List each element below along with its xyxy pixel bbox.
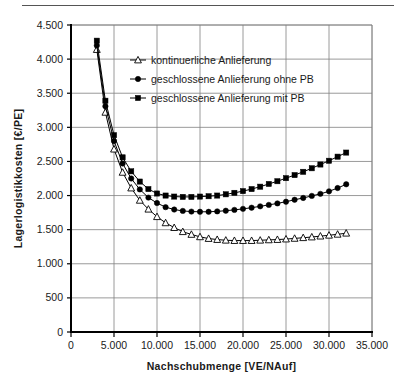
square-marker: [301, 169, 306, 174]
circle-marker: [232, 207, 237, 212]
square-marker: [223, 192, 228, 197]
x-tick-label: 5.000: [101, 339, 127, 351]
square-marker: [344, 150, 349, 155]
square-marker: [197, 194, 202, 199]
y-tick-label: 2.000: [37, 189, 63, 201]
square-marker: [120, 155, 125, 160]
y-axis-title: Lagerlogistikkosten [€/PE]: [12, 109, 24, 249]
square-marker: [163, 193, 168, 198]
x-tick-label: 35.000: [356, 339, 388, 351]
square-marker: [215, 193, 220, 198]
x-tick-label: 15.000: [184, 339, 216, 351]
square-marker: [129, 169, 134, 174]
square-marker: [103, 98, 108, 103]
x-tick-label: 0: [68, 339, 74, 351]
circle-marker: [292, 197, 297, 202]
legend-square-marker: [135, 95, 140, 100]
circle-marker: [258, 204, 263, 209]
y-axis-ticks: 05001.0001.5002.0002.5003.0003.5004.0004…: [37, 19, 71, 338]
x-tick-label: 20.000: [227, 339, 259, 351]
circle-marker: [206, 209, 211, 214]
circle-marker: [146, 195, 151, 200]
square-marker: [137, 179, 142, 184]
square-marker: [94, 38, 99, 43]
plot-background: [71, 25, 372, 332]
legend-item-0: kontinuerliche Anlieferung: [130, 54, 271, 66]
y-tick-label: 4.500: [37, 19, 63, 31]
square-marker: [309, 166, 314, 171]
square-marker: [249, 186, 254, 191]
circle-marker: [154, 200, 159, 205]
circle-marker: [223, 208, 228, 213]
circle-marker: [344, 182, 349, 187]
legend-label: geschlossene Anlieferung mit PB: [151, 92, 305, 104]
square-marker: [180, 194, 185, 199]
square-marker: [283, 176, 288, 181]
square-marker: [111, 133, 116, 138]
circle-marker: [120, 161, 125, 166]
y-tick-label: 0: [57, 326, 63, 338]
circle-marker: [283, 199, 288, 204]
legend-item-2: geschlossene Anlieferung mit PB: [130, 92, 305, 104]
y-tick-label: 3.500: [37, 87, 63, 99]
x-tick-label: 30.000: [313, 339, 345, 351]
figure-container: 05001.0001.5002.0002.5003.0003.5004.0004…: [0, 0, 403, 390]
square-marker: [206, 194, 211, 199]
circle-marker: [172, 207, 177, 212]
legend-item-1: geschlossene Anlieferung ohne PB: [130, 73, 314, 85]
circle-marker: [129, 176, 134, 181]
square-marker: [258, 184, 263, 189]
circle-marker: [301, 195, 306, 200]
square-marker: [154, 191, 159, 196]
circle-marker: [215, 209, 220, 214]
circle-marker: [266, 202, 271, 207]
circle-marker: [326, 189, 331, 194]
circle-marker: [137, 187, 142, 192]
circle-marker: [335, 185, 340, 190]
line-chart: 05001.0001.5002.0002.5003.0003.5004.0004…: [0, 0, 403, 390]
square-marker: [292, 172, 297, 177]
square-marker: [240, 189, 245, 194]
square-marker: [232, 190, 237, 195]
x-tick-label: 25.000: [270, 339, 302, 351]
y-tick-label: 500: [45, 291, 63, 303]
square-marker: [335, 154, 340, 159]
circle-marker: [249, 205, 254, 210]
square-marker: [266, 181, 271, 186]
circle-marker: [180, 208, 185, 213]
y-tick-label: 2.500: [37, 155, 63, 167]
square-marker: [172, 194, 177, 199]
x-tick-label: 10.000: [141, 339, 173, 351]
circle-marker: [275, 201, 280, 206]
circle-marker: [309, 193, 314, 198]
legend-label: kontinuerliche Anlieferung: [151, 54, 271, 66]
y-tick-label: 4.000: [37, 53, 63, 65]
x-axis-title: Nachschubmenge [VE/NAuf]: [147, 360, 297, 372]
y-tick-label: 3.000: [37, 121, 63, 133]
legend-circle-marker: [135, 76, 140, 81]
x-axis-ticks: 05.00010.00015.00020.00025.00030.00035.0…: [68, 332, 388, 351]
circle-marker: [318, 191, 323, 196]
y-tick-label: 1.000: [37, 257, 63, 269]
square-marker: [275, 179, 280, 184]
square-marker: [326, 158, 331, 163]
y-tick-label: 1.500: [37, 223, 63, 235]
circle-marker: [163, 204, 168, 209]
circle-marker: [240, 206, 245, 211]
square-marker: [189, 194, 194, 199]
square-marker: [146, 186, 151, 191]
circle-marker: [197, 209, 202, 214]
legend-label: geschlossene Anlieferung ohne PB: [151, 73, 314, 85]
circle-marker: [189, 209, 194, 214]
square-marker: [318, 162, 323, 167]
